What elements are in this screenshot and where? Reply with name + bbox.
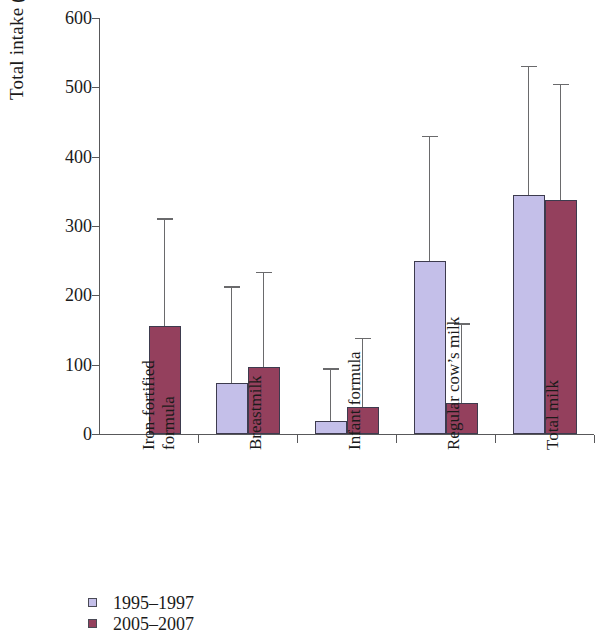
y-axis-tick <box>92 365 99 366</box>
y-axis-line <box>99 18 100 435</box>
legend-swatch-2005-2007 <box>88 619 97 628</box>
x-axis-category-label: Regular cow’s milk <box>444 317 464 450</box>
x-axis-tick <box>297 435 298 443</box>
y-axis-tick-label: 300 <box>48 217 92 235</box>
y-axis-tick-label: 600 <box>48 9 92 27</box>
legend-item: 2005–2007 <box>88 613 194 634</box>
x-axis-category-label: Iron-fortified formula <box>139 360 179 450</box>
y-axis-tick-label: 500 <box>48 78 92 96</box>
x-axis-tick <box>594 435 595 443</box>
x-axis-tick <box>396 435 397 443</box>
y-axis-tick <box>92 18 99 19</box>
bar-1995-1997 <box>513 195 545 434</box>
y-axis-tick <box>92 295 99 296</box>
y-axis-tick <box>92 226 99 227</box>
error-bar-line <box>263 272 264 368</box>
bar-1995-1997 <box>216 383 248 434</box>
bar-chart: Total intake (g) 6005004003002001000 Iro… <box>0 0 605 642</box>
x-axis-category-label: Breastmilk <box>246 375 266 450</box>
error-bar-cap <box>323 368 339 370</box>
error-bar-cap <box>157 218 173 220</box>
legend-swatch-1995-1997 <box>88 598 97 607</box>
x-axis-category-label: Infant formula <box>345 351 365 450</box>
error-bar-cap <box>553 84 569 86</box>
error-bar-cap <box>355 338 371 340</box>
legend-label-2005-2007: 2005–2007 <box>113 615 194 633</box>
y-axis-tick-label: 200 <box>48 286 92 304</box>
y-axis-tick <box>92 434 99 435</box>
error-bar-line <box>231 286 232 383</box>
x-axis-tick <box>198 435 199 443</box>
y-axis-tick-label: 100 <box>48 356 92 374</box>
error-bar-line <box>560 84 561 200</box>
legend-item: 1995–1997 <box>88 592 194 613</box>
error-bar-cap <box>256 272 272 274</box>
y-axis-tick <box>92 87 99 88</box>
bar-1995-1997 <box>315 421 347 434</box>
y-axis-tick-label: 400 <box>48 148 92 166</box>
y-axis-label: Total intake (g) <box>6 0 28 130</box>
x-axis-tick <box>495 435 496 443</box>
chart-legend: 1995–1997 2005–2007 <box>88 592 194 634</box>
error-bar-line <box>429 136 430 261</box>
error-bar-line <box>528 66 529 195</box>
legend-label-1995-1997: 1995–1997 <box>113 594 194 612</box>
error-bar-cap <box>521 66 537 68</box>
error-bar-line <box>330 368 331 421</box>
error-bar-line <box>164 218 165 325</box>
y-axis-tick <box>92 157 99 158</box>
error-bar-cap <box>224 286 240 288</box>
error-bar-cap <box>422 136 438 138</box>
bar-1995-1997 <box>414 261 446 434</box>
x-axis-category-label: Total milk <box>543 380 563 450</box>
y-axis-tick-label: 0 <box>48 425 92 443</box>
